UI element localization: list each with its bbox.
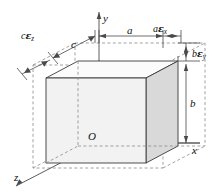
strain-x-subscript: x [164, 28, 167, 36]
dimension-label-a: a [127, 25, 133, 36]
dimension-label-c: c [71, 39, 76, 50]
strain-label-x: aεx [153, 24, 167, 36]
axis-label-y: y [103, 13, 108, 24]
axis-y-arrow [97, 12, 102, 19]
block-right-face [146, 61, 178, 163]
strain-label-y: bεy [192, 49, 206, 61]
strain-label-z: cεz [21, 31, 34, 43]
outer-edge-tl [33, 43, 75, 65]
strain-z-subscript: z [31, 35, 34, 43]
dim-ax-arrow-outer [172, 34, 178, 38]
axis-label-x: x [192, 145, 197, 156]
dim-a-arrow-left [99, 34, 106, 38]
strain-y-subscript: y [203, 53, 206, 61]
origin-label: O [88, 131, 96, 142]
dim-cz-ext-outer [17, 68, 27, 80]
dim-b-arrow-top [184, 64, 188, 71]
dim-by-arrow-down [184, 46, 188, 52]
block-front-face [46, 78, 146, 163]
dimension-b [178, 64, 200, 143]
dim-by-arrow-up [184, 52, 188, 58]
dim-b-arrow-bottom [184, 136, 188, 143]
dimension-label-b: b [190, 98, 196, 109]
strain-block-figure: y x z O a b c aεx bεy cεz [0, 0, 215, 194]
block-diagram-svg [0, 0, 215, 194]
axis-label-z: z [14, 172, 18, 183]
